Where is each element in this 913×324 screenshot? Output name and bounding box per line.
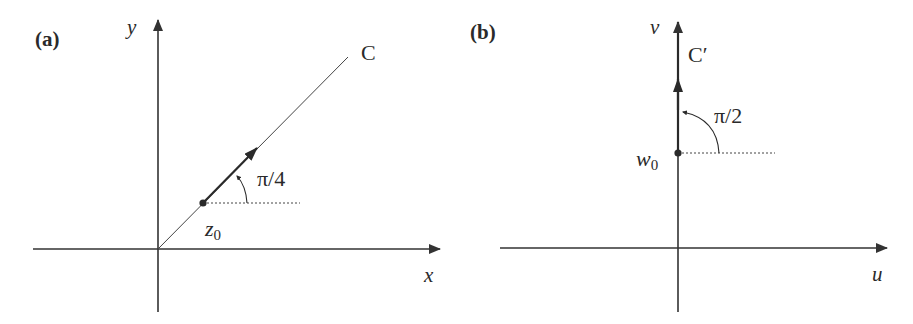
angle-label: π/4 <box>257 166 285 191</box>
panel-b: (b) u v C′ π/2 w0 <box>470 15 887 312</box>
point-z0-label: z0 <box>204 216 221 243</box>
curve-c-prime-label: C′ <box>688 42 708 67</box>
angle-arc <box>237 176 247 203</box>
tangent-arrow <box>203 148 257 203</box>
point-z0 <box>199 199 206 206</box>
curve-c-label: C <box>361 40 376 65</box>
panel-b-label: (b) <box>470 20 496 44</box>
angle-label: π/2 <box>714 103 742 128</box>
x-axis-label: x <box>423 263 434 287</box>
panel-a: (a) x y C π/4 z0 <box>33 15 440 312</box>
point-w0-label: w0 <box>636 146 658 173</box>
u-axis-label: u <box>872 262 883 286</box>
y-axis-label: y <box>125 15 137 39</box>
v-axis-label: v <box>650 15 660 39</box>
figure: (a) x y C π/4 z0 (b) u v C′ <box>0 0 913 324</box>
point-w0 <box>674 149 681 156</box>
panel-a-label: (a) <box>35 27 60 51</box>
